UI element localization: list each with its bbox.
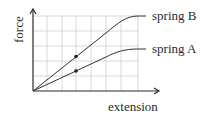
axes: [30, 9, 159, 94]
spring-force-extension-graph: spring B spring A extension force: [0, 0, 215, 124]
y-axis-label: force: [11, 16, 26, 43]
spring-b-marked-point: [74, 55, 78, 59]
spring-b-label: spring B: [152, 8, 197, 23]
spring-a-curve: [33, 49, 146, 91]
spring-a-marked-point: [74, 69, 78, 73]
x-axis-label: extension: [108, 99, 158, 114]
spring-b-curve: [33, 16, 146, 91]
spring-a-label: spring A: [152, 41, 197, 56]
grid: [33, 16, 138, 91]
